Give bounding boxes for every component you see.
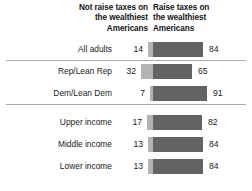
row-value-not-raise: 13	[121, 139, 143, 150]
bar-segment-raise	[153, 64, 192, 79]
diverging-bar-chart: Not raise taxes on the wealthiest Americ…	[0, 0, 252, 191]
row-category-label: Middle income	[6, 139, 112, 150]
chart-row: Rep/Lean Rep3265	[0, 61, 252, 83]
row-category-label: All adults	[6, 44, 112, 55]
row-bar	[141, 64, 192, 79]
row-value-raise: 91	[213, 88, 235, 99]
row-category-label: Lower income	[6, 161, 112, 172]
bar-segment-raise	[153, 115, 202, 130]
row-bar	[148, 137, 203, 152]
legend-label-not-raise-line-2: the wealthiest	[72, 13, 148, 23]
row-bar	[147, 115, 202, 130]
row-value-raise: 84	[209, 139, 231, 150]
chart-row: All adults1484	[0, 39, 252, 61]
legend-label-not-raise-line-1: Not raise taxes on	[72, 3, 148, 13]
chart-row: Lower income1384	[0, 156, 252, 178]
legend-label-raise-line-2: the wealthiest	[153, 13, 248, 23]
row-value-raise: 65	[198, 66, 220, 77]
legend-label-not-raise-taxes: Not raise taxes on the wealthiest Americ…	[72, 3, 148, 34]
row-value-raise: 84	[209, 161, 231, 172]
legend-label-raise-taxes: Raise taxes on the wealthiest Americans	[153, 3, 248, 34]
chart-legend-header: Not raise taxes on the wealthiest Americ…	[0, 3, 252, 39]
group-divider	[6, 104, 246, 105]
row-value-not-raise: 17	[120, 117, 142, 128]
row-value-not-raise: 14	[121, 44, 143, 55]
chart-row: Middle income1384	[0, 134, 252, 156]
legend-label-raise-line-3: Americans	[153, 24, 248, 34]
chart-row: Dem/Lean Dem791	[0, 83, 252, 105]
row-bar	[148, 42, 203, 57]
row-value-not-raise: 32	[114, 66, 136, 77]
row-value-not-raise: 13	[121, 161, 143, 172]
group-divider	[6, 60, 246, 61]
bar-segment-not-raise	[141, 64, 153, 79]
bar-segment-raise	[153, 86, 207, 101]
row-bar	[150, 86, 207, 101]
bar-segment-raise	[153, 42, 203, 57]
chart-row: Upper income1782	[0, 112, 252, 134]
legend-label-not-raise-line-3: Americans	[72, 24, 148, 34]
legend-label-raise-line-1: Raise taxes on	[153, 3, 248, 13]
row-value-raise: 82	[208, 117, 230, 128]
row-category-label: Dem/Lean Dem	[6, 88, 112, 99]
row-value-not-raise: 7	[123, 88, 145, 99]
bar-segment-raise	[153, 159, 203, 174]
bar-segment-raise	[153, 137, 203, 152]
row-category-label: Upper income	[6, 117, 112, 128]
row-value-raise: 84	[209, 44, 231, 55]
row-category-label: Rep/Lean Rep	[6, 66, 112, 77]
row-bar	[148, 159, 203, 174]
